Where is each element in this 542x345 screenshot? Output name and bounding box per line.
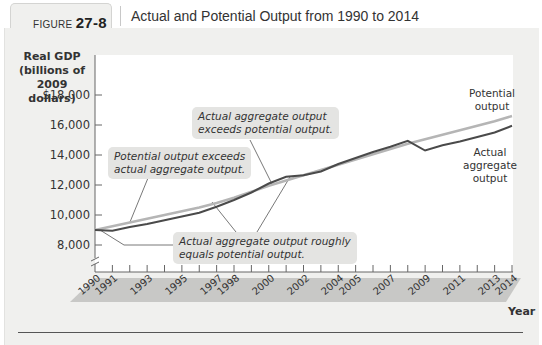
bottom-rule <box>18 332 523 333</box>
actual-output-label: Actualaggregateoutput <box>458 146 522 185</box>
x-axis-label: Year <box>508 305 535 318</box>
potential-output-label: Potentialoutput <box>462 87 522 113</box>
annotation-actual-exceeds: Actual aggregate outputexceeds potential… <box>192 107 339 139</box>
annotation-roughly-equal: Actual aggregate output roughlyequals po… <box>173 232 357 264</box>
annotation-potential-exceeds: Potential output exceedsactual aggregate… <box>108 147 251 179</box>
